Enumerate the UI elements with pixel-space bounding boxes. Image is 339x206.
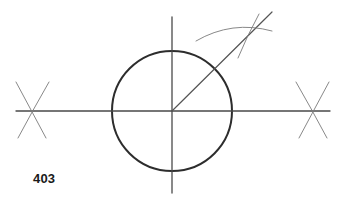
arc-cross-right [296, 82, 329, 138]
arc-cross-upper-right [196, 14, 272, 58]
arc-right-a [299, 82, 329, 138]
arc-upper-sweeping [196, 27, 272, 41]
arc-left-a [16, 82, 46, 138]
figure-container: 403 [0, 0, 339, 206]
figure-number-label: 403 [33, 172, 55, 185]
arc-right-b [296, 82, 327, 138]
radius-line [172, 12, 272, 111]
arc-cross-left [16, 82, 49, 138]
arc-left-b [18, 82, 49, 138]
